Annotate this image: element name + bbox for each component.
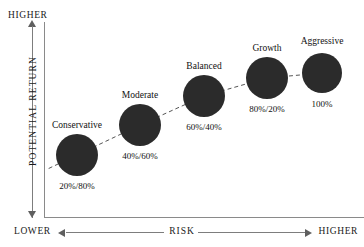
- bubble-label-moderate: Moderate: [122, 90, 158, 100]
- bubble-value-aggressive: 100%: [312, 99, 333, 109]
- arrow-down-icon: [28, 211, 36, 218]
- y-axis: HIGHER POTENTIAL RETURN: [0, 10, 44, 225]
- bubble-value-growth: 80%/20%: [249, 104, 285, 114]
- bubble-conservative[interactable]: [56, 134, 98, 176]
- bubble-label-aggressive: Aggressive: [301, 36, 344, 46]
- bubble-value-conservative: 20%/80%: [59, 181, 95, 191]
- bubble-value-balanced: 60%/40%: [186, 122, 222, 132]
- y-axis-high-label: HIGHER: [8, 10, 48, 20]
- bubble-label-balanced: Balanced: [186, 61, 221, 71]
- bubble-value-moderate: 40%/60%: [122, 151, 158, 161]
- bubble-layer: [56, 53, 342, 176]
- x-axis-high-label: HIGHER: [319, 226, 359, 236]
- bubble-growth[interactable]: [246, 57, 288, 99]
- bubble-label-conservative: Conservative: [52, 120, 102, 130]
- arrow-right-icon: [305, 229, 312, 237]
- bubble-moderate[interactable]: [119, 104, 161, 146]
- x-axis-line-right: [198, 232, 306, 233]
- bubble-label-growth: Growth: [252, 43, 281, 53]
- bubble-balanced[interactable]: [183, 75, 225, 117]
- x-axis: LOWER RISK HIGHER: [0, 223, 364, 245]
- bubble-aggressive[interactable]: [302, 53, 342, 93]
- risk-return-bubble-chart: Conservative20%/80%Moderate40%/60%Balanc…: [0, 0, 364, 247]
- y-axis-title: POTENTIAL RETURN: [28, 26, 38, 196]
